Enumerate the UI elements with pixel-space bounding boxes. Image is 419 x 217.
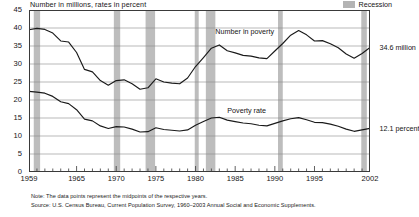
x-axis-tick-label: 1990	[266, 174, 283, 183]
y-axis-tick-label: 25	[2, 78, 22, 86]
recession-band	[146, 10, 156, 172]
series-label-number-in-poverty: Number in poverty	[215, 27, 274, 36]
x-axis-tick-label: 1985	[227, 174, 244, 183]
x-axis-tick-label: 2002	[362, 174, 379, 183]
series-line	[29, 91, 370, 132]
end-label-poverty-rate: 12.1 percent	[380, 124, 419, 133]
chart-axis-title: Number in millions, rates in percent	[30, 0, 146, 9]
x-axis-tick-label: 1980	[187, 174, 204, 183]
x-axis-tick-label: 1965	[68, 174, 85, 183]
recession-band	[195, 10, 199, 172]
recession-legend-label: Recession	[358, 0, 392, 9]
recession-band	[34, 10, 40, 172]
chart-svg	[29, 10, 370, 172]
chart-legend: Recession	[343, 0, 392, 9]
x-axis-tick-label: 1959	[21, 174, 38, 183]
x-axis-tick-label: 1970	[108, 174, 125, 183]
figure-notes: Note: The data points represent the midp…	[31, 192, 393, 210]
y-axis-tick-label: 45	[2, 6, 22, 14]
source-text: Source: U.S. Census Bureau, Current Popu…	[31, 201, 393, 210]
x-axis-tick-label: 1995	[306, 174, 323, 183]
y-axis-tick-label: 10	[2, 132, 22, 140]
series-line	[29, 28, 370, 89]
y-axis-tick-label: 40	[2, 24, 22, 32]
plot-border	[30, 11, 370, 172]
y-axis-tick-label: 20	[2, 96, 22, 104]
recession-legend-swatch	[343, 1, 355, 8]
recession-band	[114, 10, 120, 172]
end-label-number-in-poverty: 34.6 million	[380, 43, 416, 52]
y-axis-tick-label: 35	[2, 42, 22, 50]
recession-band	[361, 10, 367, 172]
y-axis-tick-label: 5	[2, 150, 22, 158]
y-axis-tick-label: 30	[2, 60, 22, 68]
series-label-poverty-rate: Poverty rate	[227, 106, 266, 115]
note-text: Note: The data points represent the midp…	[31, 192, 393, 201]
recession-band	[278, 10, 283, 172]
y-axis-tick-label: 15	[2, 114, 22, 122]
recession-band	[206, 10, 216, 172]
plot-area	[29, 10, 370, 172]
y-axis-tick-label: 0	[2, 168, 22, 176]
x-axis-tick-label: 1975	[147, 174, 164, 183]
